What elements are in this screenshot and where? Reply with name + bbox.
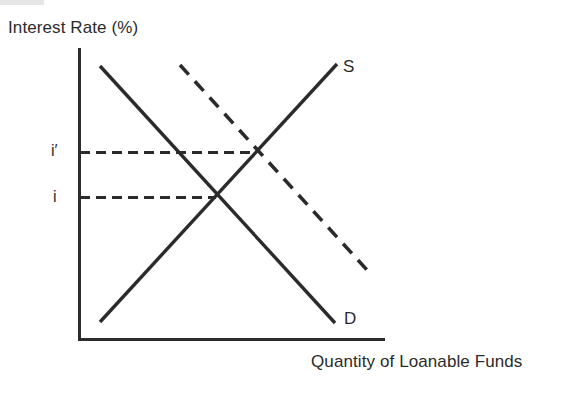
x-axis-label: Quantity of Loanable Funds [311,352,522,372]
rate-initial-label: i [53,188,57,206]
chart-canvas [0,0,583,398]
supply-curve-label: S [343,57,354,77]
y-axis-label: Interest Rate (%) [8,18,138,38]
demand-curve-shifted [180,65,367,270]
rate-new-label: i′ [51,142,58,160]
loanable-funds-diagram: Interest Rate (%) Quantity of Loanable F… [0,0,583,398]
demand-curve-label: D [344,309,356,329]
